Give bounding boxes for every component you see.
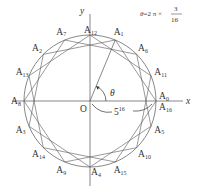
vertex-label-a12: A12 — [84, 25, 97, 36]
vertex-label-a10: A10 — [138, 149, 151, 160]
radius-label: 516 — [114, 106, 125, 117]
vertex-label-a7: A7 — [56, 27, 66, 38]
formula-numerator: 3 — [174, 5, 178, 13]
vertex-label-a2: A2 — [32, 43, 42, 54]
formula-denominator: 16 — [171, 16, 179, 24]
vertex-label-a6: A6 — [138, 43, 148, 54]
vertex-label-a4: A4 — [91, 167, 101, 178]
y-axis-label: y — [79, 6, 85, 16]
vertex-label-a9: A9 — [56, 165, 66, 176]
vertex-label-a11: A11 — [154, 67, 167, 78]
x-axis-label: x — [185, 96, 191, 106]
vertex-label-a8: A8 — [11, 96, 21, 107]
vertex-label-a1: A1 — [114, 27, 124, 38]
formula: θ=2 π × 3 16 — [140, 5, 182, 24]
vertex-label-a14: A14 — [32, 149, 45, 160]
vertex-label-a13: A13 — [16, 67, 29, 78]
vertex-label-a5: A5 — [154, 125, 164, 136]
origin-label: O — [80, 104, 87, 114]
vertex-label-a16: A16 — [159, 102, 172, 113]
formula-text: θ=2 π × — [140, 10, 162, 18]
angle-label: θ — [110, 88, 115, 98]
vertex-label-a0: A0 — [159, 91, 169, 102]
vertex-label-a15: A15 — [114, 165, 127, 176]
radius-label-leader-left — [92, 104, 112, 112]
star-polygon-diagram: θ O x y 516 θ=2 π × 3 16 A0A1A2A3A4A5A6A… — [0, 0, 201, 195]
vertex-label-a3: A3 — [16, 125, 26, 136]
radius-label-leader-right — [133, 104, 152, 111]
